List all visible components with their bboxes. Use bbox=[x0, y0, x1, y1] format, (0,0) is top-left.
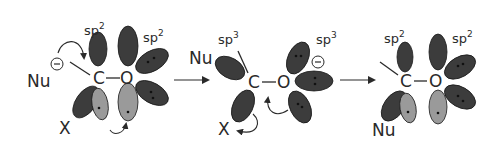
oxygen-p-orbital-top bbox=[118, 26, 138, 66]
carbon-sp3-lobe-nu bbox=[211, 51, 249, 84]
electron-dot bbox=[152, 97, 155, 100]
reaction-mechanism-diagram: C O sp2 sp2 Nu X C O Nu sp3 sp3 bbox=[0, 0, 500, 151]
nucleophile-label: Nu bbox=[189, 48, 213, 68]
nucleophile-label: Nu bbox=[372, 120, 396, 140]
oxygen-p-orbital-bottom bbox=[429, 90, 447, 124]
electron-dot bbox=[314, 83, 317, 86]
leaving-group-label: X bbox=[218, 119, 230, 139]
curved-arrow-pi-to-oxygen-icon bbox=[110, 124, 126, 133]
electron-dot bbox=[297, 103, 300, 106]
curved-arrow-reform-pi-icon bbox=[268, 98, 288, 114]
oxygen-lone-pair-right bbox=[295, 71, 333, 91]
oxygen-p-orbital-bottom bbox=[118, 83, 138, 121]
electron-dot bbox=[462, 63, 465, 66]
electron-dot bbox=[437, 112, 440, 115]
oxygen-atom: O bbox=[277, 72, 290, 92]
electron-dot bbox=[407, 111, 410, 114]
oxygen-p-orbital-top bbox=[429, 34, 447, 70]
electron-dot bbox=[295, 55, 298, 58]
electron-dot bbox=[314, 77, 317, 80]
oxygen-hybridization-label: sp2 bbox=[452, 29, 473, 46]
oxygen-lone-pair-lower bbox=[284, 87, 316, 126]
oxygen-hybridization-label: sp3 bbox=[316, 30, 337, 47]
oxygen-atom: O bbox=[429, 71, 442, 91]
electron-dot bbox=[150, 91, 153, 94]
electron-dot bbox=[300, 55, 303, 58]
oxygen-atom: O bbox=[120, 68, 133, 88]
electron-dot bbox=[462, 100, 465, 103]
carbon-atom: C bbox=[400, 71, 412, 91]
carbon-p-orbital-top bbox=[397, 42, 413, 72]
oxygen-hybridization-label: sp2 bbox=[143, 28, 164, 45]
nucleophile-label: Nu bbox=[27, 71, 51, 91]
step1-structure: C O sp2 sp2 Nu X bbox=[27, 21, 173, 138]
carbon-hybridization-label: sp3 bbox=[218, 30, 239, 47]
carbon-sp3-lobe-x bbox=[227, 86, 259, 125]
leaving-group-label: X bbox=[59, 118, 71, 138]
step3-structure: C O sp2 sp2 Nu bbox=[372, 29, 480, 140]
curved-arrow-nucleophilic-attack-icon bbox=[58, 42, 84, 58]
electron-dot bbox=[457, 65, 460, 68]
electron-dot bbox=[301, 106, 304, 109]
electron-dot bbox=[153, 57, 156, 60]
bond-c-nu-direction bbox=[70, 62, 90, 75]
electron-dot bbox=[147, 61, 150, 64]
bond-c-substituent bbox=[380, 62, 398, 75]
electron-dot bbox=[98, 107, 101, 110]
electron-dot bbox=[457, 95, 460, 98]
carbon-atom: C bbox=[248, 72, 260, 92]
carbon-atom: C bbox=[93, 68, 105, 88]
step2-structure: C O Nu sp3 sp3 X bbox=[189, 30, 337, 139]
electron-dot bbox=[127, 111, 130, 114]
